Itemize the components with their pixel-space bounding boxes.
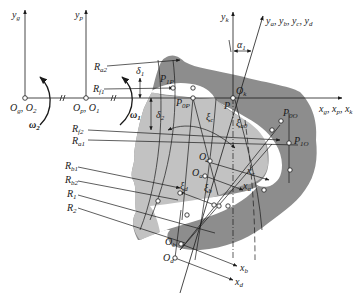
label-y-abcd: ya, yb, yc, yd (266, 16, 312, 28)
point-P (231, 96, 236, 101)
label-omega1: ω1 (130, 110, 141, 122)
label-xa: xa (243, 181, 251, 193)
label-Rf1: Rf1 (93, 84, 105, 96)
label-yk: yk (221, 12, 229, 24)
label-Od: Od (163, 253, 174, 265)
label-Oc: Oc (199, 152, 209, 164)
label-yp: yp (75, 10, 83, 22)
label-Ob: Ob (165, 237, 176, 249)
label-xi-c: ξc (206, 112, 213, 124)
label-P1O: P1O (294, 136, 309, 148)
label-delta1: δ1 (136, 66, 144, 78)
label-Rb2: Rb2 (65, 175, 78, 187)
label-Oa: Oa (192, 168, 203, 180)
alpha1-ref (229, 40, 231, 52)
label-P0O: P0O (283, 108, 298, 120)
origin-Op (84, 96, 89, 101)
label-P1P: P1P (160, 74, 174, 86)
label-Og-O2: Og, O2 (10, 103, 36, 115)
label-yg: yg (12, 10, 20, 22)
omega2-arrow (40, 77, 50, 125)
label-Ra2: Ra2 (94, 62, 107, 74)
label-Op-O1: Op, O1 (73, 103, 99, 115)
label-omega2: ω2 (29, 120, 40, 132)
label-Ok: Ok (236, 86, 246, 98)
label-P0P: P0P (176, 98, 190, 110)
label-R1: R1 (67, 189, 77, 201)
label-xd: xd (235, 277, 243, 289)
origin-Og (23, 96, 28, 101)
label-xb: xb (240, 263, 248, 275)
label-P: P (224, 101, 230, 111)
label-xi-d: ξd (180, 181, 188, 193)
label-Rb1: Rb1 (65, 161, 78, 173)
label-xi-a0: ξa0 (236, 118, 247, 130)
label-delta2: δ2 (156, 110, 164, 122)
label-xi-b: ξb (204, 183, 212, 195)
label-R2: R2 (67, 203, 77, 215)
label-alpha1: α1 (237, 40, 246, 52)
label-x-gpk: xg, xp, xk (319, 104, 352, 116)
label-xc: xc (247, 166, 255, 178)
label-Ra1: Ra1 (72, 136, 85, 148)
